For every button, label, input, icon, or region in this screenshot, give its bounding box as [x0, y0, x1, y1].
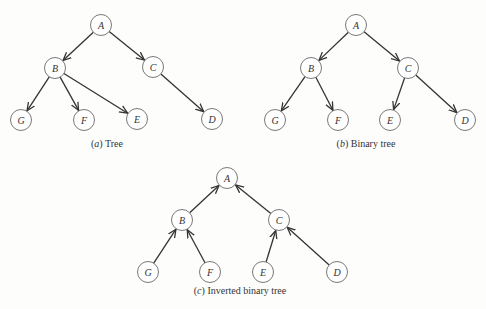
- diagram-caption: (a) Tree: [91, 138, 124, 150]
- node-f: F: [74, 110, 95, 131]
- edge-a-to-b: [319, 32, 348, 60]
- node-e: E: [380, 110, 401, 131]
- node-label: B: [52, 63, 58, 74]
- edge-a-to-c: [364, 32, 399, 61]
- node-label: F: [80, 115, 88, 126]
- node-label: G: [271, 115, 278, 126]
- node-a: A: [346, 15, 367, 36]
- diagram-caption: (b) Binary tree: [337, 138, 396, 150]
- node-label: E: [133, 114, 140, 125]
- node-label: C: [276, 215, 283, 226]
- node-label: D: [207, 114, 216, 125]
- node-label: C: [150, 62, 157, 73]
- node-g: G: [138, 262, 159, 283]
- node-label: C: [405, 63, 412, 74]
- edge-b-to-g: [27, 77, 49, 111]
- node-label: D: [332, 267, 341, 278]
- tree-diagram: ABCGFED(a) Tree: [11, 15, 223, 151]
- node-c: C: [398, 58, 419, 79]
- node-label: E: [386, 115, 393, 126]
- node-d: D: [455, 110, 476, 131]
- node-g: G: [265, 110, 286, 131]
- node-a: A: [217, 168, 238, 189]
- node-f: F: [328, 110, 349, 131]
- inverted-binary-tree-diagram: ABCGFED(c) Inverted binary tree: [138, 168, 348, 298]
- node-label: A: [352, 20, 360, 31]
- node-b: B: [301, 58, 322, 79]
- edge-b-to-g: [281, 77, 305, 111]
- node-d: D: [202, 109, 223, 130]
- edge-b-to-f: [60, 77, 79, 110]
- edge-b-to-f: [316, 77, 333, 110]
- node-label: G: [144, 267, 151, 278]
- node-e: E: [253, 262, 274, 283]
- node-g: G: [11, 110, 32, 131]
- edge-f-to-b: [187, 230, 205, 263]
- node-e: E: [127, 109, 148, 130]
- edge-e-to-c: [266, 231, 276, 262]
- node-label: B: [308, 63, 314, 74]
- edge-c-to-a: [236, 185, 271, 213]
- edge-b-to-e: [64, 74, 128, 114]
- diagram-caption: (c) Inverted binary tree: [194, 285, 287, 297]
- edge-b-to-a: [190, 186, 219, 213]
- node-label: B: [179, 215, 185, 226]
- node-c: C: [269, 210, 290, 231]
- node-label: F: [206, 267, 214, 278]
- edge-c-to-d: [161, 74, 204, 112]
- node-label: A: [223, 173, 231, 184]
- node-c: C: [143, 57, 164, 78]
- node-label: A: [97, 20, 105, 31]
- edge-g-to-b: [154, 229, 176, 263]
- binary-tree-diagram: ABCGFED(b) Binary tree: [265, 15, 476, 151]
- tree-diagrams-canvas: ABCGFED(a) Tree ABCGFED(b) Binary tree A…: [0, 0, 486, 309]
- node-label: D: [460, 115, 469, 126]
- node-b: B: [45, 58, 66, 79]
- edge-a-to-b: [63, 32, 93, 60]
- edge-a-to-c: [109, 32, 144, 60]
- node-f: F: [200, 262, 221, 283]
- node-label: G: [17, 115, 24, 126]
- edge-d-to-c: [287, 227, 329, 265]
- node-a: A: [91, 15, 112, 36]
- edge-c-to-e: [394, 78, 405, 110]
- node-label: E: [259, 267, 266, 278]
- node-d: D: [327, 262, 348, 283]
- node-b: B: [172, 210, 193, 231]
- node-label: F: [334, 115, 342, 126]
- edge-c-to-d: [416, 75, 457, 113]
